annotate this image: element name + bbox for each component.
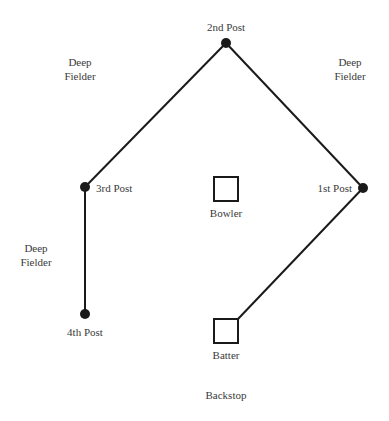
deep-fielder-left-top: Deep Fielder — [50, 55, 110, 83]
post-3-marker — [80, 182, 90, 192]
deep-fielder-line2: Fielder — [320, 69, 380, 83]
path-1st-to-batter — [238, 188, 363, 319]
post-3-label: 3rd Post — [96, 181, 132, 195]
deep-fielder-left-mid: Deep Fielder — [6, 241, 66, 269]
batter-square — [214, 319, 238, 343]
bowler-square — [214, 177, 238, 201]
post-4-label: 4th Post — [55, 325, 115, 339]
post-4-marker — [80, 309, 90, 319]
bowler-label: Bowler — [196, 206, 256, 220]
deep-fielder-line1: Deep — [320, 55, 380, 69]
post-1-label: 1st Post — [296, 181, 352, 195]
post-2-label: 2nd Post — [196, 20, 256, 34]
deep-fielder-line2: Fielder — [50, 69, 110, 83]
deep-fielder-right-top: Deep Fielder — [320, 55, 380, 83]
batter-label: Batter — [196, 348, 256, 362]
deep-fielder-line1: Deep — [6, 241, 66, 255]
deep-fielder-line1: Deep — [50, 55, 110, 69]
backstop-label: Backstop — [196, 388, 256, 402]
post-1-marker — [358, 183, 368, 193]
deep-fielder-line2: Fielder — [6, 255, 66, 269]
post-2-marker — [221, 38, 231, 48]
